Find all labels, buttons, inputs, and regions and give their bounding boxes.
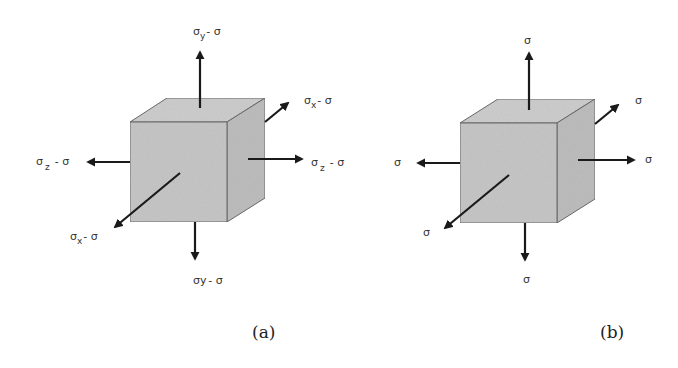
panel-a: σy- σ σx- σ σz- σ σz- σ σx- σ σy- σ (a)	[36, 25, 344, 342]
caption-b: (b)	[600, 322, 624, 342]
cube-a	[130, 98, 265, 222]
label-a-right: σz- σ	[311, 156, 344, 173]
label-a-front-left: σx- σ	[70, 230, 98, 246]
label-b-front-left: σ	[423, 226, 430, 239]
cube-b-front-face	[460, 123, 557, 223]
label-a-bottom: σy- σ	[193, 274, 223, 287]
arrow-a-back-right	[265, 103, 288, 122]
label-b-top: σ	[524, 34, 531, 47]
label-b-left: σ	[394, 156, 401, 169]
caption-a: (a)	[252, 322, 275, 342]
stress-cube-figure: σy- σ σx- σ σz- σ σz- σ σx- σ σy- σ (a) …	[0, 0, 678, 368]
panel-b: σ σ σ σ σ σ (b)	[394, 34, 652, 342]
label-b-back-right: σ	[635, 94, 642, 107]
label-a-left: σz- σ	[36, 155, 69, 172]
label-a-top: σy- σ	[193, 25, 221, 41]
label-b-right: σ	[645, 153, 652, 166]
label-b-bottom: σ	[523, 273, 530, 286]
arrow-b-back-right	[595, 105, 618, 124]
label-a-back-right: σx- σ	[304, 94, 332, 110]
cube-a-front-face	[130, 122, 227, 222]
cube-b	[460, 99, 595, 223]
